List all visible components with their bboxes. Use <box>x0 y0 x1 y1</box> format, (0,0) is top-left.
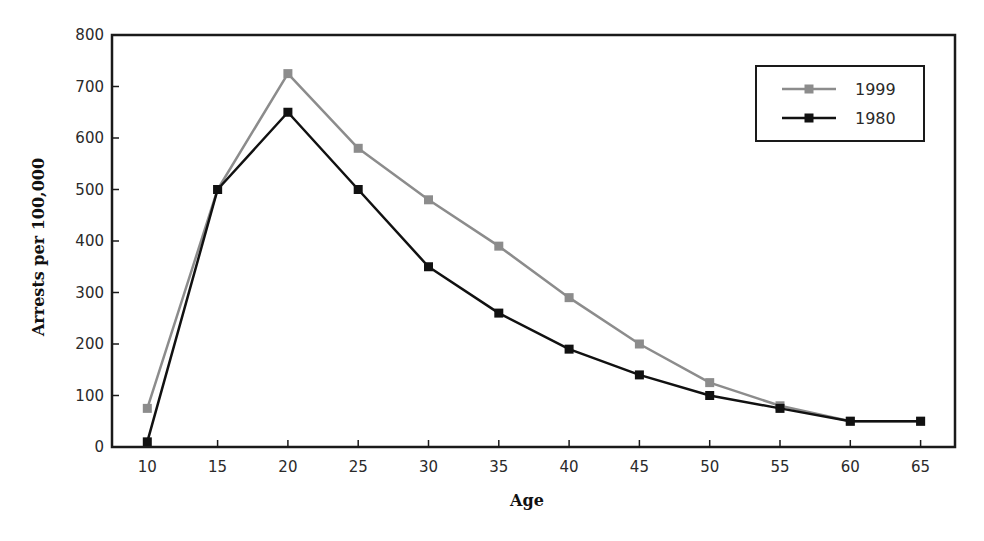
data-point-marker <box>565 293 574 302</box>
data-point-marker <box>846 417 855 426</box>
y-tick-label: 500 <box>75 181 104 199</box>
x-tick-label: 20 <box>278 458 297 476</box>
x-tick-label: 25 <box>349 458 368 476</box>
data-point-marker <box>143 437 152 446</box>
data-point-marker <box>283 69 292 78</box>
data-point-marker <box>424 195 433 204</box>
x-axis: 101520253035404550556065 <box>138 440 930 476</box>
x-tick-label: 55 <box>770 458 789 476</box>
legend-marker-icon <box>805 85 814 94</box>
data-point-marker <box>705 378 714 387</box>
x-tick-label: 40 <box>560 458 579 476</box>
x-tick-label: 35 <box>489 458 508 476</box>
data-point-marker <box>213 185 222 194</box>
legend-label: 1980 <box>855 109 896 128</box>
data-point-marker <box>143 404 152 413</box>
y-tick-label: 200 <box>75 335 104 353</box>
data-point-marker <box>705 391 714 400</box>
line-chart: 0100200300400500600700800 10152025303540… <box>0 0 984 541</box>
legend: 19991980 <box>756 66 924 141</box>
y-tick-label: 700 <box>75 78 104 96</box>
data-point-marker <box>635 340 644 349</box>
data-point-marker <box>494 309 503 318</box>
y-tick-label: 600 <box>75 129 104 147</box>
x-tick-label: 60 <box>841 458 860 476</box>
x-tick-label: 15 <box>208 458 227 476</box>
y-tick-label: 100 <box>75 387 104 405</box>
x-tick-label: 10 <box>138 458 157 476</box>
series-1980 <box>143 108 925 447</box>
x-tick-label: 45 <box>630 458 649 476</box>
data-point-marker <box>283 108 292 117</box>
x-axis-title: Age <box>509 491 544 510</box>
x-tick-label: 50 <box>700 458 719 476</box>
data-point-marker <box>776 404 785 413</box>
y-axis-title: Arrests per 100,000 <box>29 158 48 337</box>
data-point-marker <box>635 370 644 379</box>
y-tick-label: 800 <box>75 26 104 44</box>
data-point-marker <box>354 185 363 194</box>
data-point-marker <box>565 345 574 354</box>
legend-marker-icon <box>805 114 814 123</box>
x-tick-label: 65 <box>911 458 930 476</box>
data-point-marker <box>494 242 503 251</box>
y-tick-label: 0 <box>94 438 104 456</box>
data-point-marker <box>424 262 433 271</box>
y-tick-label: 300 <box>75 284 104 302</box>
data-point-marker <box>916 417 925 426</box>
data-point-marker <box>354 144 363 153</box>
x-tick-label: 30 <box>419 458 438 476</box>
legend-label: 1999 <box>855 80 896 99</box>
legend-box <box>756 66 924 141</box>
y-tick-label: 400 <box>75 232 104 250</box>
